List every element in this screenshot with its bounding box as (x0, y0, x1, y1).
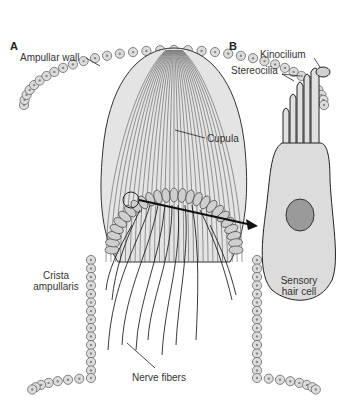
panel-label-a: A (10, 40, 18, 52)
panel-label-b: B (229, 40, 237, 52)
label-crista-ampullaris: Crista ampullaris (28, 270, 84, 292)
label-sensory-hair-cell: Sensory hair cell (270, 275, 328, 297)
label-nerve-fibers: Nerve fibers (132, 372, 186, 383)
label-stereocilia: Stereocilia (231, 65, 278, 76)
label-cupula: Cupula (207, 133, 239, 144)
ampulla-diagram: A B Ampullar wall Cupula Crista ampullar… (0, 0, 348, 401)
label-kinocilium: Kinocilium (260, 49, 306, 60)
label-hair-cell-line2: hair cell (270, 286, 328, 297)
label-crista-line2: ampullaris (28, 281, 84, 292)
label-hair-cell-line1: Sensory (270, 275, 328, 286)
label-crista-line1: Crista (28, 270, 84, 281)
label-ampullar-wall: Ampullar wall (20, 52, 79, 63)
